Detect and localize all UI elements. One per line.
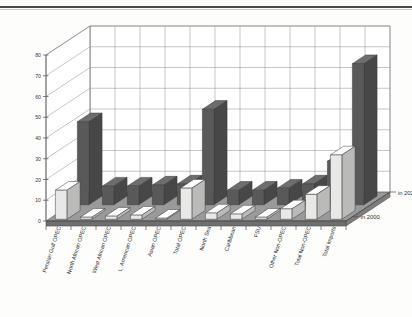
bar-front-face [230, 214, 242, 219]
chart-canvas: 80706050403020100 Persian Gulf OPECNorth… [0, 12, 412, 317]
category-label: North Sea [198, 225, 212, 252]
value-axis-tick-label: 50 [35, 114, 41, 120]
floor-front-edge [46, 221, 346, 226]
bar-front-face [227, 190, 239, 205]
category-label: Other Non-OPEC [268, 226, 287, 269]
bar-front-face [205, 213, 217, 219]
value-axis-tick-label: 0 [38, 218, 41, 224]
chart-category-labels: Persian Gulf OPECNorth African OPECWest … [41, 225, 346, 275]
bar-front-face [255, 217, 267, 219]
bar-side-face [342, 146, 355, 219]
series-label-2020: in 2020 [398, 190, 412, 196]
category-label: Total Non-OPEC [293, 226, 311, 267]
bar-front-face [280, 209, 292, 219]
bar-front-face [152, 185, 164, 205]
bar-front-face [330, 155, 342, 219]
value-axis-tick-label: 20 [35, 177, 41, 183]
bar-front-face [252, 190, 264, 205]
page-top-rule [0, 6, 412, 8]
bar [202, 101, 227, 205]
category-label: Asian OPEC [146, 226, 161, 258]
bar-front-face [277, 188, 289, 205]
category-label: West African OPEC [91, 226, 112, 274]
bar-front-face [155, 218, 167, 219]
value-axis-tick-label: 40 [35, 135, 41, 141]
bar [352, 55, 377, 205]
bar-side-face [214, 101, 227, 205]
value-axis-tick-label: 70 [35, 73, 41, 79]
category-label: L. American OPEC [117, 226, 137, 273]
bar-side-face [89, 113, 102, 205]
bar-front-face [305, 194, 317, 219]
bar-chart-3d: 80706050403020100 Persian Gulf OPECNorth… [0, 12, 412, 317]
category-label: North African OPEC [66, 226, 87, 275]
chart-page: 80706050403020100 Persian Gulf OPECNorth… [0, 0, 412, 317]
category-label: Caribbean [223, 226, 237, 252]
value-axis-tick-label: 60 [35, 94, 41, 100]
value-axis-tick-label: 30 [35, 156, 41, 162]
page-top-rule-secondary [0, 9, 412, 10]
bar [180, 179, 205, 219]
bar-side-face [364, 55, 377, 205]
bar-front-face [127, 186, 139, 205]
bar-front-face [130, 215, 142, 219]
bar [77, 113, 102, 205]
category-label: Persian Gulf OPEC [41, 226, 62, 274]
bar-front-face [105, 216, 117, 219]
category-label: FSU [253, 226, 262, 238]
bar-front-face [55, 190, 67, 219]
value-axis-tick-label: 80 [35, 52, 41, 58]
bar-front-face [80, 217, 92, 219]
series-label-2000: in 2000 [361, 214, 380, 220]
value-axis-tick-label: 10 [35, 197, 41, 203]
bar-front-face [180, 188, 192, 219]
bar-front-face [102, 186, 114, 205]
bar [330, 146, 355, 219]
category-label: Total Imports [321, 225, 337, 257]
category-label: Total OPEC [172, 226, 187, 256]
